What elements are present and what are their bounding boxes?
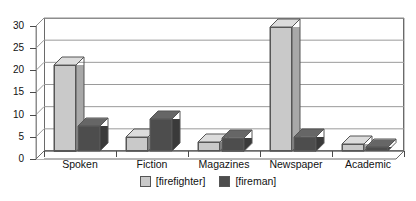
light-gray-swatch-icon xyxy=(140,176,151,187)
y-axis-label-25: 25 xyxy=(0,43,24,53)
y-axis-label-20: 20 xyxy=(0,65,24,75)
bar-spoken-fireman xyxy=(78,126,100,151)
bar-academic-firefighter xyxy=(342,144,364,151)
bar-outline xyxy=(222,130,254,153)
x-tick-mark xyxy=(404,151,405,157)
bar-outline xyxy=(294,129,326,153)
y-axis-label-30: 30 xyxy=(0,21,24,31)
bar-spoken-firefighter xyxy=(54,65,76,151)
x-tick-mark xyxy=(44,151,45,157)
bar-magazines-fireman xyxy=(222,138,244,151)
legend-label-firefighter: [firefighter] xyxy=(156,176,206,187)
y-tick-mark xyxy=(30,137,36,138)
y-axis-label-0: 0 xyxy=(0,154,24,164)
y-tick-mark xyxy=(30,159,36,160)
bar-chart: 30 25 20 15 10 5 0 Spoken Fiction Magazi… xyxy=(0,0,416,201)
x-tick-mark xyxy=(332,151,333,157)
x-tick-mark xyxy=(116,151,117,157)
bar-magazines-firefighter xyxy=(198,142,220,151)
bar-outline xyxy=(78,118,110,153)
legend-item-firefighter: [firefighter] xyxy=(140,176,206,187)
bar-newspaper-fireman xyxy=(294,137,316,151)
dark-gray-swatch-icon xyxy=(219,176,230,187)
y-axis-label-10: 10 xyxy=(0,110,24,120)
x-tick-mark xyxy=(188,151,189,157)
y-tick-mark xyxy=(30,48,36,49)
bar-academic-fireman xyxy=(366,147,388,151)
y-axis-label-5: 5 xyxy=(0,132,24,142)
legend-label-fireman: [fireman] xyxy=(235,176,276,187)
bar-outline xyxy=(150,111,182,153)
bar-newspaper-firefighter xyxy=(270,27,292,151)
x-axis-category-spoken: Spoken xyxy=(44,158,116,170)
x-axis-category-magazines: Magazines xyxy=(188,158,260,170)
y-tick-mark xyxy=(30,115,36,116)
bar-outline xyxy=(366,139,398,153)
legend-item-fireman: [fireman] xyxy=(219,176,276,187)
x-tick-mark xyxy=(260,151,261,157)
y-tick-mark xyxy=(30,26,36,27)
bar-fiction-fireman xyxy=(150,119,172,151)
y-tick-mark xyxy=(30,92,36,93)
x-axis-category-academic: Academic xyxy=(332,158,404,170)
chart-legend: [firefighter] [fireman] xyxy=(0,176,416,187)
x-axis-category-fiction: Fiction xyxy=(116,158,188,170)
y-tick-mark xyxy=(30,70,36,71)
y-axis-label-15: 15 xyxy=(0,87,24,97)
x-axis-category-newspaper: Newspaper xyxy=(260,158,332,170)
plot-area: 30 25 20 15 10 5 0 Spoken Fiction Magazi… xyxy=(0,0,416,201)
bar-fiction-firefighter xyxy=(126,137,148,151)
